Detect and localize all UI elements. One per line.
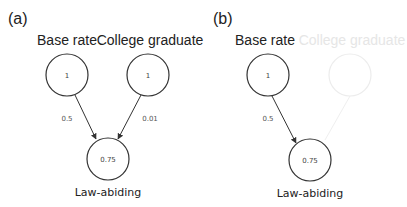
node-college-graduate-faded (329, 54, 371, 96)
edge-college-to-law-faded (325, 96, 350, 140)
edge-base-to-law (75, 95, 96, 139)
node-base-rate-title: Base rate (37, 32, 97, 48)
panel-a-label: (a) (8, 10, 28, 27)
node-college-graduate-value: 1 (146, 72, 150, 80)
edge-base-to-law-weight: 0.5 (262, 115, 273, 123)
panel-b-label: (b) (213, 10, 233, 27)
edge-base-to-law-weight: 0.5 (61, 115, 72, 123)
node-law-abiding-title: Law-abiding (75, 186, 142, 199)
diagram-canvas: (a) Base rate College graduate 1 1 0.75 … (0, 0, 407, 207)
panel-a: (a) Base rate College graduate 1 1 0.75 … (8, 10, 204, 199)
edge-base-to-law (272, 96, 296, 143)
node-law-abiding-value: 0.75 (100, 156, 116, 164)
panel-b: (b) Base rate College graduate 1 0.75 0.… (213, 10, 406, 200)
node-base-rate-value: 1 (65, 72, 69, 80)
node-college-graduate-title-faded: College graduate (299, 32, 406, 48)
edge-college-to-law-weight: 0.01 (142, 115, 158, 123)
node-base-rate-value: 1 (266, 72, 270, 80)
edge-college-to-law (118, 95, 141, 139)
node-base-rate-title: Base rate (235, 32, 295, 48)
node-law-abiding-title: Law-abiding (277, 187, 344, 200)
node-law-abiding-value: 0.75 (302, 157, 318, 165)
node-college-graduate-title: College graduate (97, 32, 204, 48)
